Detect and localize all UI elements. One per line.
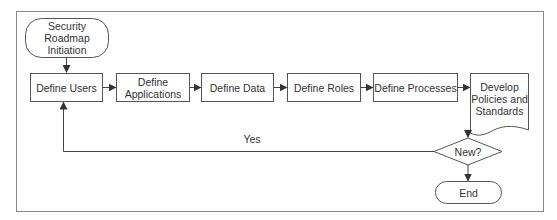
node-end-label: End xyxy=(436,182,501,203)
node-develop-policies-label: Develop Policies and Standards xyxy=(471,74,528,124)
node-decision-new-label: New? xyxy=(440,143,496,160)
node-define-users-label: Define Users xyxy=(31,74,102,101)
node-define-roles-label: Define Roles xyxy=(288,74,360,101)
node-define-applications-label: Define Applications xyxy=(117,74,189,101)
node-define-data-label: Define Data xyxy=(202,74,273,101)
edge-yes-label: Yes xyxy=(230,132,274,146)
node-define-processes-label: Define Processes xyxy=(374,74,457,101)
node-start-label: Security Roadmap Initiation xyxy=(26,19,108,57)
